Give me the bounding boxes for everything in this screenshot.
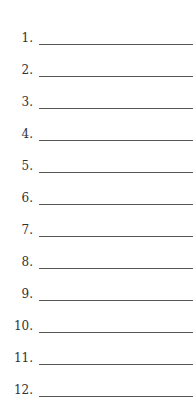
item-number: 8. xyxy=(22,256,33,268)
list-item: 9. xyxy=(0,282,193,302)
list-item: 2. xyxy=(0,58,193,78)
blank-line xyxy=(39,332,193,333)
blank-line xyxy=(39,172,193,173)
item-number: 3. xyxy=(22,96,33,108)
blank-line xyxy=(39,204,193,205)
item-number: 10. xyxy=(14,320,33,332)
blank-line xyxy=(39,44,193,45)
item-number: 12. xyxy=(14,384,33,396)
blank-line xyxy=(39,300,193,301)
list-item: 8. xyxy=(0,250,193,270)
item-number: 7. xyxy=(22,224,33,236)
item-number: 1. xyxy=(22,32,33,44)
list-item: 3. xyxy=(0,90,193,110)
list-item: 12. xyxy=(0,378,193,398)
blank-line xyxy=(39,364,193,365)
list-item: 10. xyxy=(0,314,193,334)
list-item: 6. xyxy=(0,186,193,206)
item-number: 11. xyxy=(14,352,33,364)
blank-line xyxy=(39,140,193,141)
blank-line xyxy=(39,108,193,109)
item-number: 5. xyxy=(22,160,33,172)
list-item: 1. xyxy=(0,26,193,46)
blank-line xyxy=(39,236,193,237)
list-item: 4. xyxy=(0,122,193,142)
item-number: 4. xyxy=(22,128,33,140)
item-number: 6. xyxy=(22,192,33,204)
item-number: 9. xyxy=(22,288,33,300)
item-number: 2. xyxy=(22,64,33,76)
blank-line xyxy=(39,76,193,77)
list-item: 11. xyxy=(0,346,193,366)
list-item: 7. xyxy=(0,218,193,238)
blank-line xyxy=(39,268,193,269)
list-item: 5. xyxy=(0,154,193,174)
blank-line xyxy=(39,396,193,397)
